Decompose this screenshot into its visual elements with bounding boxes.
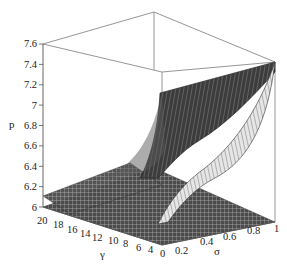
sigma-tick-0: 0 bbox=[160, 248, 165, 259]
p-tick-6.8: 6.8 bbox=[24, 120, 37, 131]
sigma-axis-label: σ bbox=[214, 245, 220, 257]
sigma-tick-1: 1 bbox=[274, 223, 279, 234]
gamma-tick-12: 12 bbox=[92, 232, 103, 243]
gamma-tick-20: 20 bbox=[37, 215, 48, 226]
p-tick-7: 7 bbox=[32, 100, 37, 111]
p-axis: 6 6.2 6.4 6.6 6.8 7 7.2 7.4 7.6 p bbox=[9, 38, 43, 212]
gamma-tick-4: 4 bbox=[148, 244, 154, 255]
p-tick-6.4: 6.4 bbox=[24, 161, 38, 172]
p-tick-6: 6 bbox=[32, 202, 37, 213]
gamma-tick-8: 8 bbox=[123, 238, 128, 249]
p-axis-label: p bbox=[9, 118, 15, 130]
gamma-tick-18: 18 bbox=[53, 219, 64, 230]
sigma-tick-0.8: 0.8 bbox=[247, 225, 260, 236]
p-tick-7.6: 7.6 bbox=[24, 38, 37, 49]
gamma-axis-label: γ bbox=[99, 248, 105, 260]
sigma-tick-0.6: 0.6 bbox=[223, 231, 236, 242]
gamma-tick-16: 16 bbox=[67, 224, 78, 235]
p-tick-6.6: 6.6 bbox=[24, 140, 37, 151]
gamma-tick-10: 10 bbox=[108, 235, 119, 246]
p-tick-7.2: 7.2 bbox=[24, 79, 37, 90]
surface-plot: 6 6.2 6.4 6.6 6.8 7 7.2 7.4 7.6 p 20 18 … bbox=[0, 0, 287, 264]
sigma-tick-0.4: 0.4 bbox=[200, 236, 214, 247]
gamma-tick-14: 14 bbox=[80, 228, 91, 239]
p-tick-6.2: 6.2 bbox=[24, 181, 37, 192]
p-tick-7.4: 7.4 bbox=[24, 59, 38, 70]
gamma-tick-6: 6 bbox=[136, 242, 141, 253]
sigma-tick-0.2: 0.2 bbox=[175, 245, 188, 256]
